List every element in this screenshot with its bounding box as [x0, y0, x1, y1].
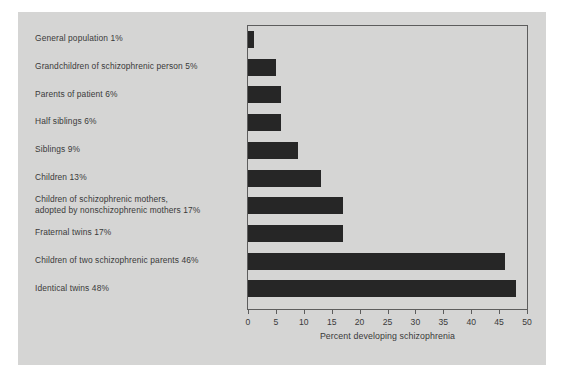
- x-axis-tick: [360, 310, 361, 314]
- category-label: Children of two schizophrenic parents 46…: [35, 255, 247, 266]
- bar: [248, 197, 343, 214]
- bar: [248, 59, 276, 76]
- category-label: Siblings 9%: [35, 144, 247, 155]
- category-label: Children of schizophrenic mothers, adopt…: [35, 194, 247, 215]
- x-axis-tick-label: 35: [439, 317, 449, 327]
- x-axis-tick: [248, 310, 249, 314]
- x-axis-tick-label: 30: [411, 317, 421, 327]
- plot-area: [247, 25, 528, 310]
- x-axis-tick: [332, 310, 333, 314]
- category-label-column: General population 1%Grandchildren of sc…: [35, 12, 247, 365]
- x-axis-tick-label: 10: [299, 317, 309, 327]
- x-axis-tick: [499, 310, 500, 314]
- bar: [248, 170, 321, 187]
- chart-figure: General population 1%Grandchildren of sc…: [18, 12, 546, 365]
- x-axis-tick-label: 5: [274, 317, 279, 327]
- x-axis-tick-label: 15: [327, 317, 337, 327]
- bar: [248, 86, 281, 103]
- x-axis-tick: [276, 310, 277, 314]
- bar: [248, 253, 505, 270]
- x-axis-tick-label: 50: [522, 317, 532, 327]
- x-axis-tick: [443, 310, 444, 314]
- x-axis-tick-label: 45: [494, 317, 504, 327]
- x-axis-tick-label: 40: [466, 317, 476, 327]
- bar: [248, 142, 298, 159]
- category-label: Parents of patient 6%: [35, 89, 247, 100]
- bars-container: [248, 26, 527, 309]
- bar: [248, 225, 343, 242]
- category-label: Fraternal twins 17%: [35, 227, 247, 238]
- bar: [248, 280, 516, 297]
- x-axis-tick-label: 20: [355, 317, 365, 327]
- x-axis-tick: [304, 310, 305, 314]
- bar: [248, 31, 254, 48]
- x-axis-tick-label: 25: [383, 317, 393, 327]
- category-label: Half siblings 6%: [35, 116, 247, 127]
- x-axis: Percent developing schizophrenia 0510152…: [247, 309, 528, 365]
- x-axis-tick: [415, 310, 416, 314]
- x-axis-tick: [388, 310, 389, 314]
- category-label: Grandchildren of schizophrenic person 5%: [35, 61, 247, 72]
- x-axis-tick: [527, 310, 528, 314]
- x-axis-tick-label: 0: [246, 317, 251, 327]
- x-axis-title: Percent developing schizophrenia: [247, 331, 528, 341]
- bar: [248, 114, 281, 131]
- category-label: General population 1%: [35, 33, 247, 44]
- category-label: Identical twins 48%: [35, 283, 247, 294]
- category-label: Children 13%: [35, 172, 247, 183]
- x-axis-tick: [471, 310, 472, 314]
